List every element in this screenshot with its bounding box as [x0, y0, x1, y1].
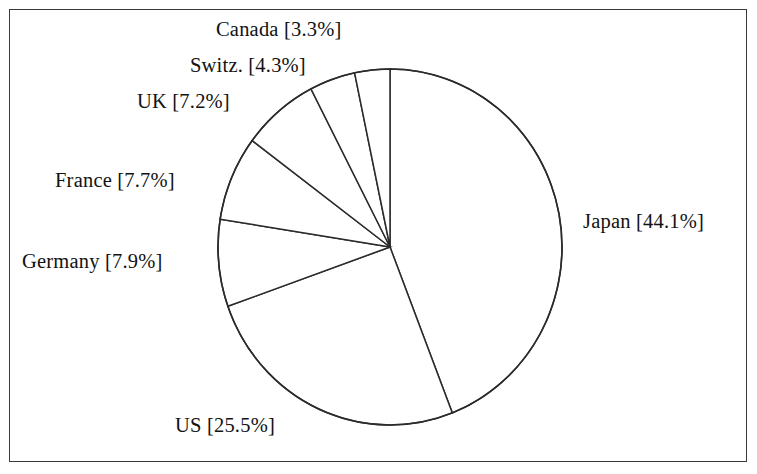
pie-chart-svg: [0, 0, 757, 474]
slice-label-uk: UK [7.2%]: [137, 89, 230, 113]
slice-label-japan: Japan [44.1%]: [583, 209, 704, 233]
slice-label-canada: Canada [3.3%]: [216, 17, 342, 41]
pie-slice-group: [218, 69, 562, 425]
slice-label-us: US [25.5%]: [175, 413, 275, 437]
slice-label-switz: Switz. [4.3%]: [190, 53, 306, 77]
slice-label-france: France [7.7%]: [55, 168, 175, 192]
slice-label-germany: Germany [7.9%]: [22, 249, 163, 273]
pie-chart-figure: Canada [3.3%] Switz. [4.3%] UK [7.2%] Fr…: [0, 0, 757, 474]
